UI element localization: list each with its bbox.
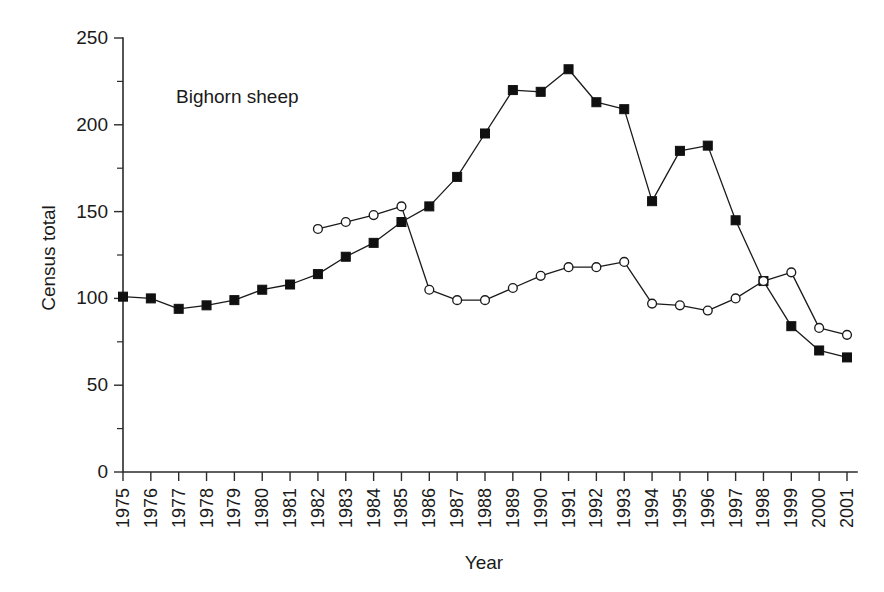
data-point-marker-square — [703, 141, 712, 150]
x-tick-label: 2001 — [837, 488, 857, 528]
data-point-marker-circle — [815, 324, 824, 333]
data-point-marker-circle — [648, 299, 657, 308]
y-tick-label: 50 — [87, 374, 108, 395]
x-tick-label: 1991 — [559, 488, 579, 528]
y-tick-label: 200 — [76, 114, 108, 135]
x-tick-labels: 1975197619771978197919801981198219831984… — [113, 488, 857, 528]
data-point-marker-circle — [536, 271, 545, 280]
data-point-marker-circle — [703, 306, 712, 315]
data-point-marker-square — [174, 304, 183, 313]
data-point-marker-square — [648, 197, 657, 206]
data-point-marker-circle — [676, 301, 685, 310]
data-point-marker-square — [592, 98, 601, 107]
x-tick-label: 1975 — [113, 488, 133, 528]
x-axis-title: Year — [465, 552, 504, 573]
x-tick-label: 1997 — [726, 488, 746, 528]
data-point-marker-circle — [453, 296, 462, 305]
data-point-marker-circle — [620, 258, 629, 267]
data-point-marker-square — [787, 322, 796, 331]
data-point-marker-circle — [592, 263, 601, 272]
data-point-marker-circle — [369, 211, 378, 220]
y-tick-label: 150 — [76, 201, 108, 222]
chart-figure: 050100150200250 197519761977197819791980… — [0, 0, 884, 592]
data-point-marker-square — [202, 301, 211, 310]
x-tick-label: 1987 — [447, 488, 467, 528]
data-point-marker-square — [425, 202, 434, 211]
x-tick-label: 1978 — [197, 488, 217, 528]
series-line — [123, 69, 847, 357]
data-point-marker-circle — [314, 225, 323, 234]
data-point-marker-circle — [508, 284, 517, 293]
x-tick-label: 1988 — [475, 488, 495, 528]
y-tick-labels: 050100150200250 — [76, 27, 108, 482]
x-tick-label: 1989 — [503, 488, 523, 528]
x-tick-label: 1996 — [698, 488, 718, 528]
data-point-marker-circle — [341, 218, 350, 227]
x-tick-label: 1995 — [670, 488, 690, 528]
y-tick-label: 100 — [76, 287, 108, 308]
data-point-marker-square — [564, 65, 573, 74]
data-point-marker-square — [119, 292, 128, 301]
x-tick-label: 1994 — [642, 488, 662, 528]
x-tick-label: 1985 — [391, 488, 411, 528]
x-tick-label: 1984 — [364, 488, 384, 528]
data-series-group — [119, 65, 852, 362]
data-point-marker-circle — [787, 268, 796, 277]
data-point-marker-square — [620, 105, 629, 114]
x-tick-label: 1979 — [224, 488, 244, 528]
data-point-marker-circle — [759, 277, 768, 286]
x-tick-label: 1998 — [753, 488, 773, 528]
data-point-marker-square — [731, 216, 740, 225]
data-point-marker-square — [453, 172, 462, 181]
data-point-marker-square — [230, 296, 239, 305]
data-point-marker-circle — [425, 285, 434, 294]
data-point-marker-square — [369, 238, 378, 247]
data-point-marker-circle — [731, 294, 740, 303]
data-point-marker-square — [843, 353, 852, 362]
y-tick-label: 0 — [97, 461, 108, 482]
series-annotation-label: Bighorn sheep — [176, 86, 299, 107]
data-point-marker-square — [481, 129, 490, 138]
line-chart-plot: 050100150200250 197519761977197819791980… — [0, 0, 884, 592]
y-axis-title: Census total — [38, 205, 59, 311]
x-tick-label: 1990 — [531, 488, 551, 528]
data-point-marker-square — [258, 285, 267, 294]
x-tick-label: 1980 — [252, 488, 272, 528]
data-point-marker-square — [508, 86, 517, 95]
x-tick-label: 1981 — [280, 488, 300, 528]
x-tick-label: 1982 — [308, 488, 328, 528]
x-tick-label: 2000 — [809, 488, 829, 528]
x-tick-label: 1983 — [336, 488, 356, 528]
x-tick-label: 1977 — [169, 488, 189, 528]
x-tick-label: 1993 — [614, 488, 634, 528]
data-point-marker-circle — [564, 263, 573, 272]
x-tick-label: 1986 — [419, 488, 439, 528]
data-point-marker-circle — [843, 330, 852, 339]
data-point-marker-circle — [481, 296, 490, 305]
data-point-marker-square — [815, 346, 824, 355]
series-filled-square-series — [119, 65, 852, 362]
data-point-marker-square — [146, 294, 155, 303]
data-point-marker-square — [536, 87, 545, 96]
data-point-marker-square — [397, 218, 406, 227]
series-open-circle-series — [314, 202, 852, 339]
data-point-marker-square — [286, 280, 295, 289]
data-point-marker-square — [675, 146, 684, 155]
y-tick-label: 250 — [76, 27, 108, 48]
x-tick-label: 1992 — [586, 488, 606, 528]
x-tick-label: 1976 — [141, 488, 161, 528]
x-tick-label: 1999 — [781, 488, 801, 528]
data-point-marker-square — [341, 252, 350, 261]
data-point-marker-square — [313, 270, 322, 279]
data-point-marker-circle — [397, 202, 406, 211]
